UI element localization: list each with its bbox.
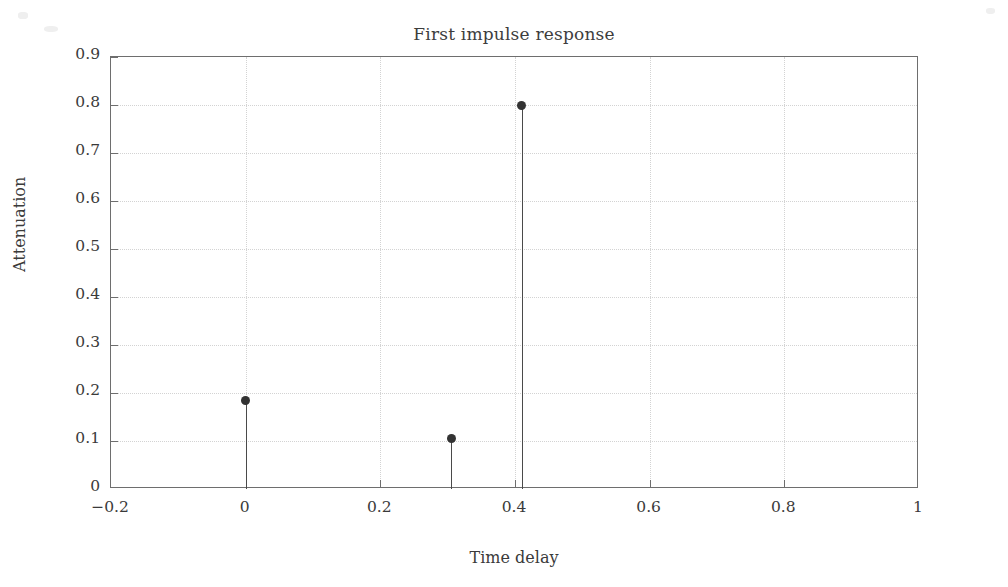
y-axis-tick-label: 0.7 — [4, 141, 100, 159]
y-axis-tick-label: 0.4 — [4, 285, 100, 303]
gridline-horizontal — [111, 297, 917, 298]
y-axis-tick-label: 0.3 — [4, 333, 100, 351]
data-point-marker — [447, 434, 456, 443]
y-axis-tick — [111, 153, 118, 154]
gridline-horizontal — [111, 249, 917, 250]
data-point-marker — [517, 101, 526, 110]
gridline-vertical — [650, 57, 651, 487]
y-axis-tick-label: 0.9 — [4, 45, 100, 63]
y-axis-tick-label: 0.5 — [4, 237, 100, 255]
y-axis-tick-label: 0 — [4, 477, 100, 495]
gridline-horizontal — [111, 441, 917, 442]
x-axis-tick-label: 0.2 — [319, 498, 439, 516]
y-axis-tick-label: 0.6 — [4, 189, 100, 207]
x-axis-tick — [784, 480, 785, 487]
y-axis-tick-label: 0.8 — [4, 93, 100, 111]
gridline-horizontal — [111, 105, 917, 106]
stem-line — [522, 105, 523, 489]
page-speckle — [44, 26, 58, 32]
y-axis-tick — [111, 57, 118, 58]
page-speckle — [18, 12, 28, 19]
y-axis-tick — [111, 105, 118, 106]
y-axis-tick — [111, 249, 118, 250]
y-axis-tick-label: 0.1 — [4, 429, 100, 447]
data-point-marker — [241, 396, 250, 405]
x-axis-tick-label: 1 — [858, 498, 978, 516]
x-axis-tick — [380, 480, 381, 487]
y-axis-tick — [111, 297, 118, 298]
x-axis-tick — [515, 480, 516, 487]
gridline-vertical — [784, 57, 785, 487]
x-axis-tick-label: 0 — [185, 498, 305, 516]
y-axis-tick — [111, 441, 118, 442]
chart-figure: First impulse response Time delay Attenu… — [0, 0, 1008, 587]
x-axis-tick-label: 0.6 — [589, 498, 709, 516]
gridline-horizontal — [111, 345, 917, 346]
x-axis-tick — [650, 480, 651, 487]
chart-title: First impulse response — [110, 24, 918, 44]
page-speckle — [986, 8, 995, 14]
stem-line — [451, 439, 452, 489]
stem-line — [246, 400, 247, 489]
x-axis-tick-label: 0.4 — [454, 498, 574, 516]
gridline-horizontal — [111, 393, 917, 394]
plot-area — [110, 56, 918, 488]
y-axis-tick — [111, 201, 118, 202]
x-axis-title: Time delay — [110, 548, 918, 567]
gridline-horizontal — [111, 153, 917, 154]
x-axis-tick-label: 0.8 — [723, 498, 843, 516]
gridline-vertical — [380, 57, 381, 487]
gridline-vertical — [515, 57, 516, 487]
y-axis-tick — [111, 345, 118, 346]
gridline-horizontal — [111, 201, 917, 202]
y-axis-tick — [111, 393, 118, 394]
x-axis-tick-label: −0.2 — [50, 498, 170, 516]
y-axis-tick-label: 0.2 — [4, 381, 100, 399]
